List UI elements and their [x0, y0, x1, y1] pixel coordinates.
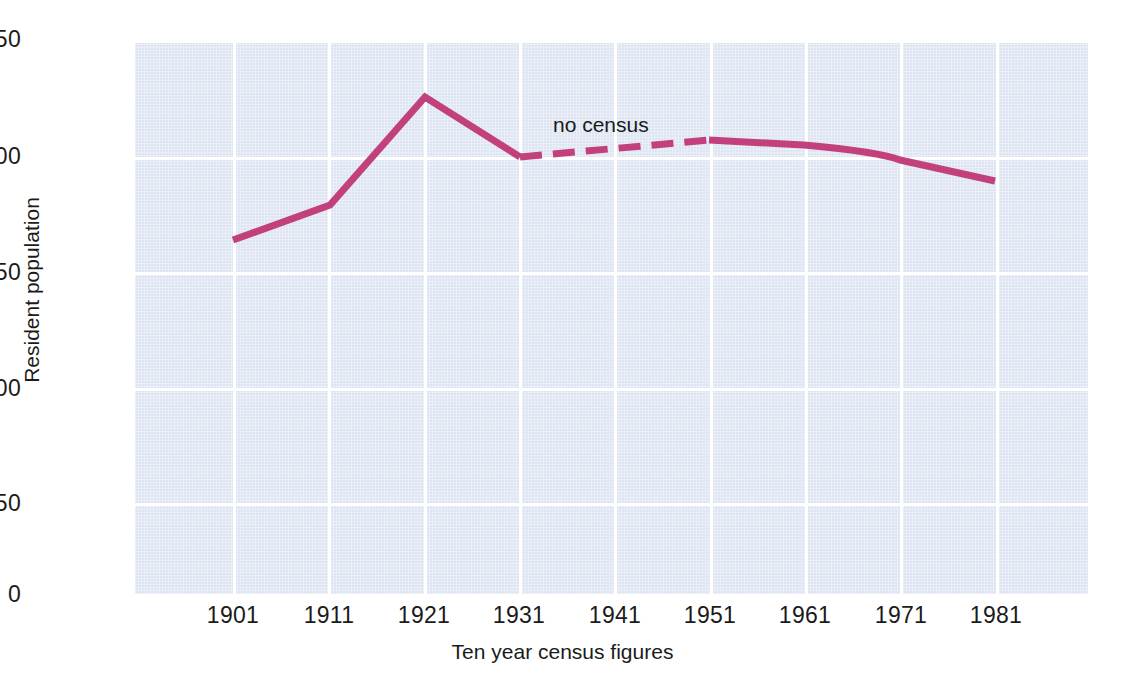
population-line-chart: no census 1250 1000 750 500 250 0 1901 1… [0, 0, 1125, 681]
y-axis-tick-500: 500 [0, 377, 21, 400]
gridline-y-1000 [135, 157, 1088, 160]
gridline-y-500 [135, 388, 1088, 391]
y-axis-tick-1250: 1250 [0, 28, 21, 51]
gridline-x-1931 [519, 40, 522, 594]
y-axis-tick-0: 0 [0, 583, 21, 606]
gridline-x-1901 [233, 40, 236, 594]
x-axis-label: Ten year census figures [0, 640, 1125, 664]
gridline-x-1981 [996, 40, 999, 594]
gridline-x-1921 [424, 40, 427, 594]
y-axis-tick-250: 250 [0, 492, 21, 515]
y-axis-tick-1000: 1000 [0, 145, 21, 168]
y-axis-label: Resident population [20, 110, 44, 470]
x-axis-tick-1981: 1981 [936, 604, 1056, 627]
gridline-y-1250 [135, 40, 1088, 43]
gridline-y-750 [135, 272, 1088, 275]
y-axis-tick-750: 750 [0, 261, 21, 284]
gridline-x-1971 [900, 40, 903, 594]
gridline-x-1911 [328, 40, 331, 594]
no-census-annotation: no census [553, 113, 649, 137]
gridline-y-250 [135, 503, 1088, 506]
gridline-x-1961 [805, 40, 808, 594]
gridline-x-1951 [710, 40, 713, 594]
